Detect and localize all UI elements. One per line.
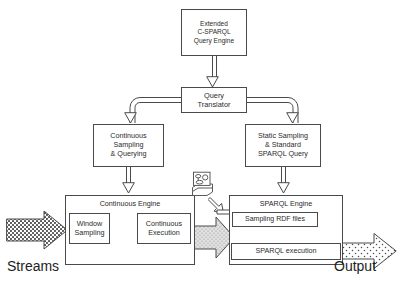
node-sampling-rdf-files: Sampling RDF files <box>232 212 318 227</box>
node-line: Query <box>204 91 224 100</box>
database-stack-icon <box>190 171 220 205</box>
node-line: Execution <box>148 229 180 238</box>
continuous-engine-title: Continuous Engine <box>100 200 161 209</box>
node-line: & Querying <box>111 150 147 159</box>
arrowhead-down-to-static-sampling <box>286 112 299 124</box>
node-line: Sampling RDF files <box>245 215 305 224</box>
node-continuous-sampling-querying: Continuous Sampling & Querying <box>93 124 164 167</box>
node-extended-csparql-query-engine: Extended C-SPARQL Query Engine <box>181 9 247 56</box>
connector-extended-to-translator <box>212 56 217 78</box>
node-line: Translator <box>198 100 231 109</box>
node-continuous-execution: Continuous Execution <box>137 213 191 244</box>
node-line: C-SPARQL <box>197 28 230 36</box>
node-line: Extended <box>200 20 228 28</box>
node-line: Sampling <box>75 229 105 238</box>
node-sparql-execution: SPARQL execution <box>231 243 341 260</box>
node-static-sampling-standard-sparql-query: Static Sampling & Standard SPARQL Query <box>245 124 321 167</box>
streams-label: Streams <box>7 258 59 274</box>
arrowhead-down-to-sparql-engine <box>277 182 290 194</box>
arrowhead-down-to-continuous-sampling <box>124 112 137 124</box>
node-line: Query Engine <box>194 37 234 45</box>
node-query-translator: Query Translator <box>181 87 247 113</box>
node-line: SPARQL Query <box>258 150 308 159</box>
arrowhead-down-to-continuous-engine <box>122 182 135 194</box>
node-window-sampling: Window Sampling <box>69 213 110 244</box>
streams-input-arrow <box>6 210 68 250</box>
diagram-canvas: Extended C-SPARQL Query Engine Query Tra… <box>0 0 400 297</box>
output-label: Output <box>334 258 376 274</box>
node-line: SPARQL execution <box>255 247 316 256</box>
sparql-engine-title: SPARQL Engine <box>260 200 313 209</box>
